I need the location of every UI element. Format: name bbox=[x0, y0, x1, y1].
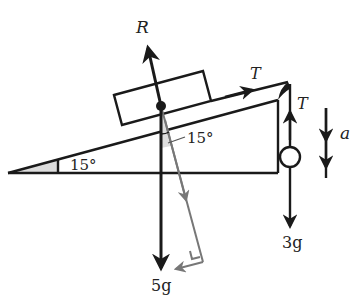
tension-arrow-block bbox=[225, 90, 252, 97]
label-component-angle: 15° bbox=[187, 129, 214, 147]
label-mass-weight: 3g bbox=[282, 233, 302, 252]
center-of-mass-dot bbox=[156, 101, 166, 111]
label-reaction: R bbox=[135, 17, 149, 37]
label-tension-block: T bbox=[250, 64, 262, 83]
pulley-incline-diagram: R T T a 15° 15° 5g 3g bbox=[0, 0, 357, 301]
label-acceleration: a bbox=[340, 123, 350, 143]
label-incline-angle: 15° bbox=[70, 156, 97, 174]
label-block-weight: 5g bbox=[151, 276, 171, 295]
hanging-mass bbox=[280, 147, 300, 167]
label-tension-mass: T bbox=[297, 94, 309, 113]
